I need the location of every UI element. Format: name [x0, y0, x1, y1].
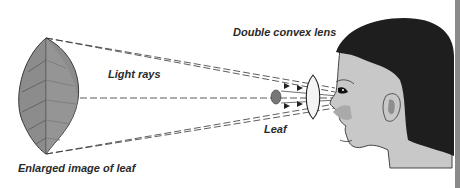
light-rays-label: Light rays — [108, 68, 161, 80]
double-convex-lens-label: Double convex lens — [233, 26, 336, 38]
small-leaf-icon — [271, 90, 281, 104]
magnifying-lens-diagram: Light rays Double convex lens Leaf Enlar… — [0, 0, 465, 188]
light-rays — [46, 38, 335, 154]
page-edge-divider — [455, 0, 460, 188]
ray-arrowheads — [284, 83, 303, 109]
enlarged-image-label: Enlarged image of leaf — [18, 162, 135, 174]
human-head-icon — [330, 18, 454, 168]
leaf-label: Leaf — [264, 123, 287, 135]
enlarged-leaf-icon — [19, 38, 79, 154]
